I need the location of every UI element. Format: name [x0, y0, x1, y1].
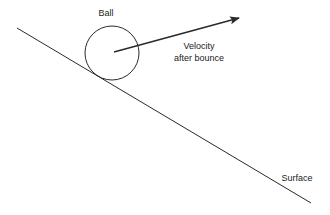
ball-circle — [85, 26, 139, 80]
velocity-label-line1: Velocity — [183, 41, 215, 51]
ball-label: Ball — [98, 8, 113, 18]
velocity-label-line2: after bounce — [174, 53, 224, 63]
surface-label: Surface — [281, 173, 312, 183]
ball-bounce-diagram: Ball Velocity after bounce Surface — [0, 0, 330, 215]
surface-line — [17, 28, 311, 203]
